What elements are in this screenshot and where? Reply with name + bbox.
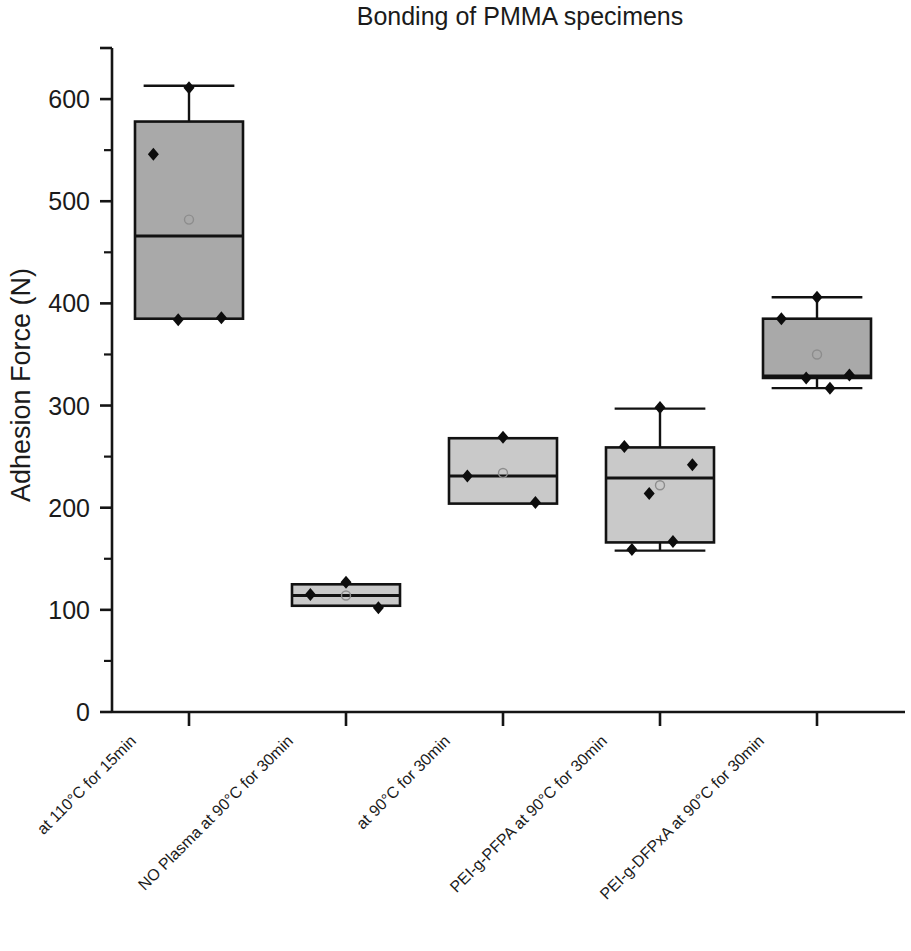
- y-tick-label: 300: [48, 392, 90, 420]
- boxplot-figure: Bonding of PMMA specimens Adhesion Force…: [0, 0, 911, 951]
- box-iqr-rect: [606, 447, 714, 542]
- box-iqr-rect: [763, 319, 871, 378]
- y-tick-label: 0: [76, 698, 90, 726]
- boxplot-box: [449, 431, 557, 509]
- chart-canvas: Bonding of PMMA specimens Adhesion Force…: [0, 0, 911, 951]
- box-iqr-rect: [449, 438, 557, 503]
- y-tick-label: 200: [48, 494, 90, 522]
- y-tick-label: 600: [48, 85, 90, 113]
- y-tick-label: 400: [48, 289, 90, 317]
- chart-title: Bonding of PMMA specimens: [357, 2, 684, 30]
- y-axis-title: Adhesion Force (N): [6, 268, 36, 502]
- y-tick-label: 100: [48, 596, 90, 624]
- y-tick-label: 500: [48, 187, 90, 215]
